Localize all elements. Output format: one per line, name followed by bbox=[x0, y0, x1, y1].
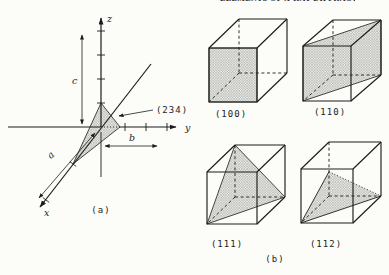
cube-edge bbox=[353, 142, 381, 169]
shaded-plane-110 bbox=[303, 20, 381, 101]
cube-edge bbox=[209, 19, 239, 48]
cube-edge bbox=[257, 73, 287, 102]
cube-edge bbox=[257, 145, 285, 172]
cube-111 bbox=[207, 145, 285, 224]
panel-b-caption: (b) bbox=[265, 254, 284, 264]
panel-a-axes-diagram: z y x c b a (234) (a) bbox=[8, 13, 191, 218]
cube-110-label: (110) bbox=[314, 107, 346, 117]
x-axis-label: x bbox=[44, 207, 50, 218]
cube-112-label: (112) bbox=[310, 239, 342, 249]
cube-110 bbox=[303, 20, 381, 101]
panel-a-caption: (a) bbox=[91, 205, 110, 215]
plane-234-label: (234) bbox=[156, 105, 188, 115]
cube-112 bbox=[301, 142, 381, 223]
b-param-label: b bbox=[129, 132, 135, 143]
scanned-book-page: ELEMENTS OF X-RAY DIFFRACTION bbox=[0, 0, 389, 275]
miller-indices-figure: z y x c b a (234) (a) (100) (110) (111) … bbox=[0, 0, 389, 275]
y-axis-label: y bbox=[184, 122, 191, 133]
cube-100 bbox=[209, 19, 287, 102]
panel-b-cubes bbox=[207, 19, 381, 224]
shaded-plane-112 bbox=[301, 172, 381, 223]
c-param-label: c bbox=[72, 75, 78, 86]
a-param-label: a bbox=[45, 149, 57, 161]
z-axis-label: z bbox=[106, 13, 113, 24]
cube-111-label: (111) bbox=[211, 239, 243, 249]
cube-100-label: (100) bbox=[215, 109, 247, 119]
shaded-plane-100 bbox=[209, 48, 257, 102]
cube-edge bbox=[301, 142, 329, 169]
cube-edge bbox=[257, 19, 287, 48]
plane-234-leader-arrow bbox=[119, 110, 153, 116]
a-dimension-arrow bbox=[39, 133, 95, 198]
